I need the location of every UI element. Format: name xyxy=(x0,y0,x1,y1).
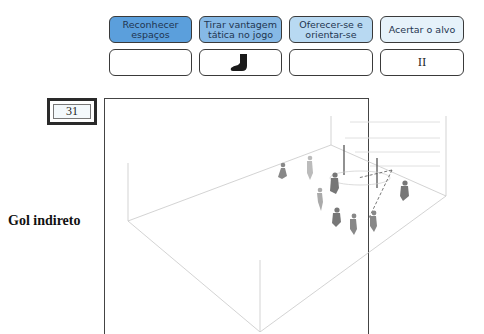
court-illustration xyxy=(0,0,484,332)
